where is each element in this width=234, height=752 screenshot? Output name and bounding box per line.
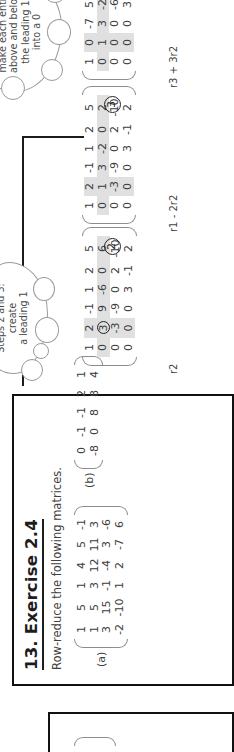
matrix-cell: 5	[84, 0, 97, 14]
matrix-cell: 0	[97, 261, 111, 280]
cloud-line: create	[6, 272, 18, 364]
cloud-line: a leading 1	[18, 272, 30, 364]
matrix-cell-pivot: 3	[97, 318, 111, 338]
step-number-2: 2	[104, 238, 121, 255]
matrix-cell: -1	[84, 299, 97, 318]
matrix-cell: 0	[109, 196, 122, 215]
matrix-cell: 0	[109, 139, 122, 158]
cloud-text: Step 4: make each entry above and below …	[0, 0, 43, 91]
matrix-cell: 0	[110, 338, 123, 357]
matrix-cell: 2	[122, 95, 135, 120]
cloud-text: Steps 2 and 3: create a leading 1	[0, 263, 29, 373]
matrix-cell: 0	[122, 52, 135, 71]
cloud-line: the leading 1	[20, 0, 32, 82]
matrix-cell: 0	[122, 14, 135, 33]
pivot-ring: 3	[97, 322, 110, 335]
matrix-cell: 3	[123, 280, 136, 299]
matrix-cell: 1	[84, 139, 97, 158]
matrix-cell: 0	[97, 338, 111, 357]
matrix-cell: 1	[84, 196, 97, 215]
matrix-cell: -1	[122, 120, 135, 139]
matrix-cell: 0	[122, 177, 135, 196]
matrix-cell: 2	[84, 261, 97, 280]
matrix-cell: -9	[109, 158, 122, 177]
matrix-cell: 2	[84, 177, 97, 196]
cloud-bump	[35, 317, 59, 343]
matrix-cell: 0	[122, 158, 135, 177]
cloud-bump	[43, 0, 67, 3]
matrix-cell: 2	[84, 120, 97, 139]
matrix-cell: 1	[84, 338, 97, 357]
matrix-cell: 0	[84, 33, 97, 52]
matrix-cell: 1	[84, 52, 97, 71]
matrix-cell: 0	[109, 14, 122, 33]
matrix-cell: 2	[84, 318, 97, 338]
table-row: 0 0 0 3 -1 2	[123, 236, 136, 357]
matrix-cell: -7	[84, 14, 97, 33]
matrix-cell: 0	[110, 280, 123, 299]
worked-step-4-matrix: 1 0 -7 5 2 1 0 1 3 -2 0	[82, 0, 136, 80]
matrix-cell: 0	[123, 299, 136, 318]
row-operation-label: r2	[168, 364, 179, 374]
cloud-line: into a 0	[31, 0, 43, 82]
matrix-cell: 0	[123, 318, 136, 338]
table-row: 0 0 0 -6 2 -4	[109, 0, 122, 71]
matrix-cell: 0	[122, 33, 135, 52]
cloud-line: Steps 2 and 3:	[0, 272, 6, 364]
matrix-cell: 2	[109, 120, 122, 139]
table-row: 1 0 -7 5 2 1	[84, 0, 97, 71]
matrix-cell: 0	[122, 196, 135, 215]
matrix-cell: -6	[109, 0, 122, 14]
matrix-cell: -6	[97, 280, 111, 299]
table-row: 0 0 0 3 -1 2	[122, 0, 135, 71]
matrix-cell: 3	[122, 139, 135, 158]
matrix-cell: 0	[123, 338, 136, 357]
table-row: 1 2 -1 1 2 5	[84, 236, 97, 357]
matrix-cell: 9	[97, 299, 111, 318]
cloud-bump	[33, 343, 49, 359]
cloud-line: above and below	[8, 0, 20, 82]
matrix-cell: 0	[109, 33, 122, 52]
table-row: 1 2 -1 1 2 5	[84, 95, 97, 215]
table-row: 0 0 0 3 -1 2	[122, 95, 135, 215]
rotated-page-viewport: 000 000 000 13. Exercise 2.4 Row-reduce …	[0, 0, 234, 752]
matrix-cell: -1	[123, 261, 136, 280]
matrix-cell: 5	[84, 236, 97, 261]
matrix-cell: 2	[123, 236, 136, 261]
textbook-page: 000 000 000 13. Exercise 2.4 Row-reduce …	[0, 0, 234, 752]
matrix-cell: 1	[84, 280, 97, 299]
callout-cloud-step-4: Step 4: make each entry above and below …	[0, 0, 62, 92]
row-operation-label: r3 + 3r2	[168, 46, 179, 88]
worked-example-strip: 1 2 -1 1 2 5 0 3 9 -6 0	[0, 0, 234, 752]
matrix-cell: 5	[84, 95, 97, 120]
matrix-cell: -9	[110, 299, 123, 318]
table-row: 0 -3 -9 0 2 -10	[109, 95, 122, 215]
matrix-cell: 3	[122, 0, 135, 14]
cloud-bump	[41, 59, 63, 81]
matrix-cell: -3	[109, 177, 122, 196]
callout-cloud-steps-2-3: Steps 2 and 3: create a leading 1	[0, 262, 48, 374]
matrix-cell: 0	[109, 52, 122, 71]
matrix-cell: 2	[110, 261, 123, 280]
cloud-bump	[33, 277, 55, 301]
cloud-bump	[47, 19, 71, 45]
matrix-cell: -3	[110, 318, 123, 338]
matrix-cell: -1	[84, 158, 97, 177]
step-number-3: 3	[104, 96, 121, 113]
cloud-line: make each entry	[0, 0, 8, 82]
row-operation-label: r1 - 2r2	[168, 195, 179, 232]
